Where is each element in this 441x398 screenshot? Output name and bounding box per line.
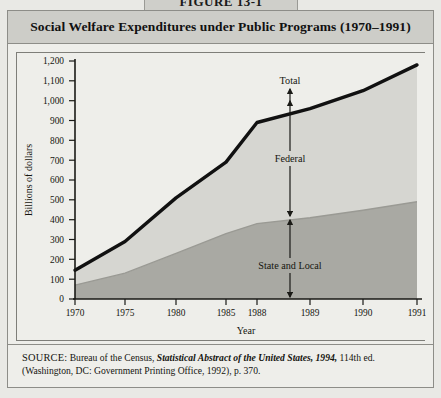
y-tick-label: 200 (50, 255, 64, 265)
x-tick-label: 1975 (116, 308, 135, 318)
source-divider (8, 344, 433, 345)
y-tick-label: 500 (50, 195, 64, 205)
x-tick-label: 1985 (217, 308, 236, 318)
x-tick-label: 1991 (408, 308, 426, 318)
chart-plot-area: 0 100 200 300 400 500 600 700 800 900 1,… (16, 52, 425, 341)
annotation-label-total: Total (280, 75, 301, 86)
y-tick-label: 0 (59, 294, 64, 304)
source-note: SOURCE: Bureau of the Census, Statistica… (22, 351, 421, 377)
area-chart: 0 100 200 300 400 500 600 700 800 900 1,… (17, 53, 426, 340)
y-tick-label: 1,200 (43, 56, 64, 66)
y-tick-label: 300 (50, 235, 64, 245)
y-tick-label: 100 (50, 275, 64, 285)
x-tick-label: 1970 (66, 308, 85, 318)
x-tick-label: 1980 (167, 308, 186, 318)
source-text-before: Bureau of the Census, (67, 352, 157, 363)
annotation-label-federal: Federal (275, 153, 306, 164)
y-tick-label: 800 (50, 136, 64, 146)
y-tick-label: 700 (50, 156, 64, 166)
annotation-label-state-and-local: State and Local (258, 260, 322, 271)
x-tick-label: 1988 (248, 308, 267, 318)
x-axis-label: Year (237, 325, 256, 336)
y-tick-label: 600 (50, 175, 64, 185)
y-tick-label: 1,000 (43, 96, 64, 106)
x-tick-label: 1989 (301, 308, 320, 318)
y-tick-label: 1,100 (43, 76, 64, 86)
source-label: SOURCE: (22, 352, 67, 363)
figure-title-bar: Social Welfare Expenditures under Public… (8, 11, 433, 44)
y-tick-label: 400 (50, 215, 64, 225)
x-tick-label: 1990 (354, 308, 373, 318)
source-publication-title: Statistical Abstract of the United State… (157, 352, 337, 363)
page-title: Social Welfare Expenditures under Public… (30, 19, 411, 35)
figure-card: Social Welfare Expenditures under Public… (7, 10, 434, 388)
y-axis-label: Billions of dollars (23, 144, 34, 216)
y-tick-label: 900 (50, 116, 64, 126)
